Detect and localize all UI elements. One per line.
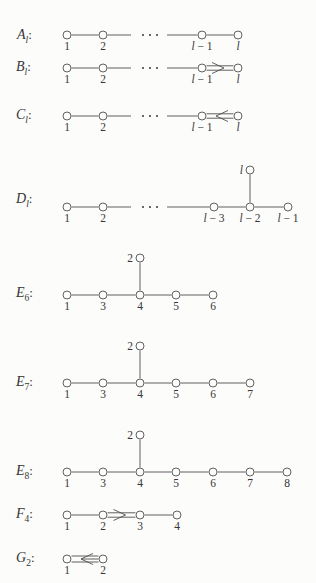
node-circle bbox=[99, 379, 107, 387]
node-circle bbox=[172, 379, 180, 387]
ellipsis-dot bbox=[156, 67, 158, 69]
node-label: 2 bbox=[100, 73, 106, 85]
node-circle bbox=[210, 203, 218, 211]
node-label: 1 bbox=[64, 564, 70, 576]
node-circle bbox=[99, 555, 107, 563]
dynkin-diagram-Bl: Bl:12l − 1l bbox=[16, 59, 242, 85]
ellipsis-dot bbox=[142, 67, 144, 69]
node-circle bbox=[136, 342, 144, 350]
node-circle bbox=[99, 112, 107, 120]
ellipsis-dot bbox=[142, 34, 144, 36]
node-circle bbox=[283, 468, 291, 476]
ellipsis-dot bbox=[156, 115, 158, 117]
node-circle bbox=[172, 468, 180, 476]
ellipsis-dot bbox=[156, 206, 158, 208]
dynkin-diagram-G2: G2:12 bbox=[16, 550, 107, 576]
node-circle bbox=[246, 166, 254, 174]
node-label: 1 bbox=[64, 40, 70, 52]
node-label: 8 bbox=[284, 477, 290, 489]
node-circle bbox=[99, 511, 107, 519]
diagram-label-E6: E6: bbox=[15, 285, 33, 303]
node-circle bbox=[99, 203, 107, 211]
node-label: 5 bbox=[173, 300, 179, 312]
dynkin-diagram-Al: Al:12l − 1l bbox=[16, 27, 242, 52]
node-circle bbox=[63, 291, 71, 299]
node-circle bbox=[209, 468, 217, 476]
node-circle bbox=[63, 64, 71, 72]
node-label: 6 bbox=[210, 477, 216, 489]
node-label: 3 bbox=[137, 520, 143, 532]
ellipsis-dot bbox=[149, 34, 151, 36]
ellipsis-dot bbox=[149, 115, 151, 117]
node-label: 3 bbox=[100, 300, 106, 312]
node-circle bbox=[63, 511, 71, 519]
diagram-label-Cl: Cl: bbox=[16, 107, 32, 125]
node-label: 1 bbox=[64, 300, 70, 312]
node-label: 3 bbox=[100, 388, 106, 400]
node-label: 1 bbox=[64, 477, 70, 489]
node-label: 2 bbox=[127, 429, 133, 441]
node-label: l bbox=[236, 121, 239, 133]
node-label: 2 bbox=[100, 40, 106, 52]
ellipsis-dot bbox=[149, 67, 151, 69]
node-label: 1 bbox=[64, 388, 70, 400]
node-label: 6 bbox=[210, 300, 216, 312]
node-label: 7 bbox=[247, 477, 253, 489]
ellipsis-dot bbox=[156, 34, 158, 36]
diagram-label-E7: E7: bbox=[15, 374, 33, 392]
arrow-right-icon bbox=[114, 510, 126, 521]
node-circle bbox=[136, 254, 144, 262]
node-label: 4 bbox=[174, 520, 180, 532]
node-circle bbox=[234, 31, 242, 39]
node-label: 7 bbox=[247, 388, 253, 400]
node-circle bbox=[99, 468, 107, 476]
node-circle bbox=[136, 431, 144, 439]
node-circle bbox=[99, 291, 107, 299]
node-circle bbox=[246, 379, 254, 387]
ellipsis-dot bbox=[142, 115, 144, 117]
dynkin-diagram-Cl: Cl:12l − 1l bbox=[16, 107, 242, 133]
node-label: l bbox=[236, 40, 239, 52]
node-label: l bbox=[240, 164, 243, 176]
node-circle bbox=[246, 468, 254, 476]
node-circle bbox=[198, 112, 206, 120]
node-label: 3 bbox=[100, 477, 106, 489]
node-label: l − 3 bbox=[203, 212, 224, 224]
node-label: l − 2 bbox=[239, 212, 260, 224]
arrow-right-icon bbox=[212, 63, 224, 74]
node-circle bbox=[198, 31, 206, 39]
node-circle bbox=[63, 112, 71, 120]
node-circle bbox=[136, 379, 144, 387]
node-label: 6 bbox=[210, 388, 216, 400]
node-circle bbox=[209, 291, 217, 299]
diagram-label-G2: G2: bbox=[16, 550, 35, 568]
node-label: 1 bbox=[64, 121, 70, 133]
node-label: 2 bbox=[100, 212, 106, 224]
node-circle bbox=[172, 291, 180, 299]
diagram-label-E8: E8: bbox=[15, 463, 33, 481]
node-label: l − 1 bbox=[191, 40, 212, 52]
figure-page: Al:12l − 1lBl:12l − 1lCl:12l − 1lDl:12l … bbox=[0, 0, 316, 583]
node-circle bbox=[99, 31, 107, 39]
ellipsis-dot bbox=[142, 206, 144, 208]
node-circle bbox=[63, 203, 71, 211]
diagram-label-Al: Al: bbox=[16, 27, 32, 45]
node-label: l − 1 bbox=[191, 73, 212, 85]
node-label: 5 bbox=[173, 477, 179, 489]
node-circle bbox=[136, 291, 144, 299]
dynkin-diagrams-figure: Al:12l − 1lBl:12l − 1lCl:12l − 1lDl:12l … bbox=[0, 0, 316, 583]
node-label: 5 bbox=[173, 388, 179, 400]
node-circle bbox=[173, 511, 181, 519]
node-label: 4 bbox=[137, 300, 143, 312]
node-label: l bbox=[236, 73, 239, 85]
node-circle bbox=[209, 379, 217, 387]
node-label: 2 bbox=[127, 252, 133, 264]
node-circle bbox=[136, 468, 144, 476]
dynkin-diagram-E7: E7:1345672 bbox=[15, 340, 254, 400]
dynkin-diagram-E8: E8:13456782 bbox=[15, 429, 291, 489]
diagram-label-Bl: Bl: bbox=[16, 59, 31, 77]
node-label: 1 bbox=[64, 73, 70, 85]
node-circle bbox=[63, 31, 71, 39]
node-circle bbox=[246, 203, 254, 211]
node-label: 2 bbox=[100, 520, 106, 532]
